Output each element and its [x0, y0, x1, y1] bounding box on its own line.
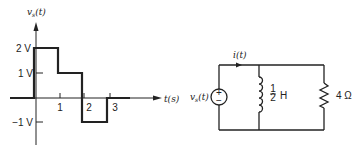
x-tick-label-3: 3 — [112, 102, 118, 113]
current-label: i(t) — [233, 50, 247, 60]
inductor-value-denominator: 2 — [270, 92, 276, 103]
y-axis-label: vs(t) — [27, 7, 46, 18]
inductor-unit: H — [280, 90, 287, 101]
y-axis-arrow-icon — [34, 22, 39, 31]
x-axis-label: t(s) — [164, 94, 180, 104]
resistor-label: 4 Ω — [336, 90, 352, 101]
inductor-coil-icon — [259, 77, 263, 112]
y-tick-label-1: 1 V — [18, 68, 33, 79]
source-label: vs(t) — [190, 92, 209, 103]
y-tick-label-neg1: −1 V — [12, 117, 33, 128]
x-tick-label-2: 2 — [86, 102, 92, 113]
x-tick-label-1: 1 — [57, 102, 63, 113]
x-axis-arrow-icon — [153, 96, 162, 101]
resistor-zigzag-icon — [320, 83, 328, 108]
figure: vs(t) 2 V 1 V −1 V 1 2 3 t(s) i(t) vs(t)… — [0, 0, 360, 153]
current-arrow-icon — [236, 63, 242, 68]
y-tick-label-2: 2 V — [16, 43, 31, 54]
source-minus-sign: − — [216, 95, 222, 106]
